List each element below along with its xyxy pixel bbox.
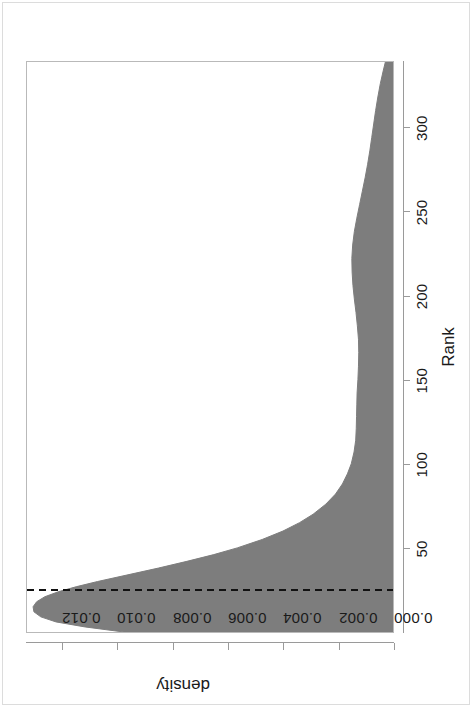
x-tick-label: 200 xyxy=(413,284,430,310)
density-area-path xyxy=(33,61,394,632)
density-area-svg xyxy=(27,61,394,632)
plot-area xyxy=(26,61,394,633)
page-frame: 50100150200250300 Rank 0.0000.0020.0040.… xyxy=(2,2,470,705)
y-tick-label: 0.008 xyxy=(173,610,212,627)
y-tick-label: 0.000 xyxy=(394,610,433,627)
x-tick-label: 300 xyxy=(413,115,430,141)
x-tick xyxy=(403,211,410,212)
y-tick xyxy=(228,643,229,650)
density-figure: 50100150200250300 Rank 0.0000.0020.0040.… xyxy=(3,3,473,708)
x-tick-label: 250 xyxy=(413,200,430,226)
y-tick xyxy=(339,643,340,650)
y-tick xyxy=(117,643,118,650)
y-tick-label: 0.002 xyxy=(339,610,378,627)
x-tick-label: 150 xyxy=(413,368,430,394)
y-tick xyxy=(62,643,63,650)
x-tick xyxy=(403,127,410,128)
x-tick xyxy=(403,380,410,381)
y-tick-label: 0.012 xyxy=(62,610,101,627)
x-tick xyxy=(403,464,410,465)
x-tick-label: 50 xyxy=(413,540,430,557)
x-tick-label: 100 xyxy=(413,452,430,478)
y-axis-title: density xyxy=(156,675,210,695)
y-tick-label: 0.006 xyxy=(228,610,267,627)
x-tick xyxy=(403,296,410,297)
y-tick-label: 0.004 xyxy=(283,610,322,627)
y-tick-label: 0.010 xyxy=(117,610,156,627)
y-tick xyxy=(173,643,174,650)
x-axis-title: Rank xyxy=(439,327,459,367)
y-tick xyxy=(394,643,395,650)
y-tick xyxy=(283,643,284,650)
x-tick xyxy=(403,548,410,549)
